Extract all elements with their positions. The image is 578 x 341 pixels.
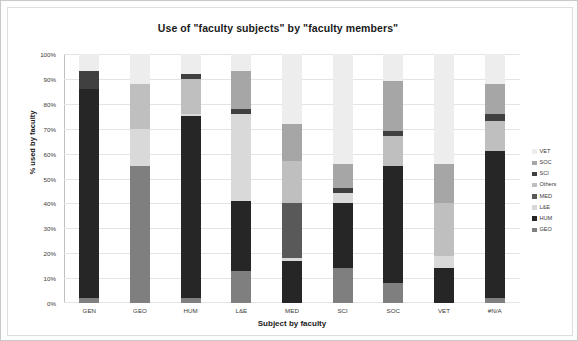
segment-LE[interactable] bbox=[130, 129, 150, 166]
x-axis-tick-GEO: GEO bbox=[115, 307, 166, 314]
segment-HUM[interactable] bbox=[231, 201, 251, 271]
x-axis-tick-LE: L&E bbox=[216, 307, 267, 314]
x-axis-tick-NA: #N/A bbox=[469, 307, 520, 314]
segment-Others[interactable] bbox=[434, 203, 454, 255]
segment-HUM[interactable] bbox=[434, 268, 454, 303]
segment-LE[interactable] bbox=[282, 258, 302, 260]
segment-VET[interactable] bbox=[79, 54, 99, 71]
segment-VET[interactable] bbox=[282, 54, 302, 124]
segment-GEO[interactable] bbox=[333, 268, 353, 303]
bar-LE[interactable] bbox=[231, 54, 251, 303]
x-axis-tick-GEN: GEN bbox=[64, 307, 115, 314]
legend-item-MED[interactable]: MED bbox=[532, 191, 578, 202]
segment-HUM[interactable] bbox=[485, 151, 505, 298]
x-axis-tick-MED: MED bbox=[267, 307, 318, 314]
bar-GEN[interactable] bbox=[79, 54, 99, 303]
segment-VET[interactable] bbox=[434, 54, 454, 164]
legend-label: MED bbox=[540, 194, 552, 200]
segment-HUM[interactable] bbox=[333, 203, 353, 268]
segment-VET[interactable] bbox=[231, 54, 251, 71]
segment-Others[interactable] bbox=[485, 121, 505, 151]
bar-NA[interactable] bbox=[485, 54, 505, 303]
legend-swatch-icon bbox=[532, 183, 537, 188]
segment-LE[interactable] bbox=[181, 114, 201, 116]
segment-GEO[interactable] bbox=[79, 298, 99, 303]
plot-area bbox=[64, 54, 520, 303]
bar-SCI[interactable] bbox=[333, 54, 353, 303]
bar-GEO[interactable] bbox=[130, 54, 150, 303]
segment-SCI[interactable] bbox=[79, 71, 99, 88]
segment-LE[interactable] bbox=[231, 114, 251, 201]
segment-SOC[interactable] bbox=[282, 124, 302, 161]
segment-VET[interactable] bbox=[333, 54, 353, 164]
legend-swatch-icon bbox=[532, 228, 537, 233]
legend-label: GEO bbox=[540, 227, 552, 233]
segment-VET[interactable] bbox=[383, 54, 403, 81]
x-axis-tick-HUM: HUM bbox=[165, 307, 216, 314]
legend-label: SOC bbox=[540, 160, 552, 166]
segment-SCI[interactable] bbox=[231, 109, 251, 114]
legend-item-LE[interactable]: L&E bbox=[532, 202, 578, 213]
legend-item-VET[interactable]: VET bbox=[532, 146, 578, 157]
segment-SCI[interactable] bbox=[485, 114, 505, 121]
legend-label: HUM bbox=[540, 216, 553, 222]
legend-swatch-icon bbox=[532, 161, 537, 166]
bar-SOC[interactable] bbox=[383, 54, 403, 303]
x-axis-title: Subject by faculty bbox=[64, 319, 520, 328]
segment-Others[interactable] bbox=[282, 161, 302, 203]
segment-LE[interactable] bbox=[434, 256, 454, 268]
legend-swatch-icon bbox=[532, 216, 537, 221]
segment-Others[interactable] bbox=[130, 84, 150, 129]
legend-label: VET bbox=[540, 149, 551, 155]
legend-item-Others[interactable]: Others bbox=[532, 180, 578, 191]
segment-GEO[interactable] bbox=[181, 298, 201, 303]
segment-VET[interactable] bbox=[485, 54, 505, 84]
segment-SCI[interactable] bbox=[383, 131, 403, 136]
x-axis-tick-SCI: SCI bbox=[317, 307, 368, 314]
legend-item-HUM[interactable]: HUM bbox=[532, 213, 578, 224]
y-axis-tick-0: 0% bbox=[10, 300, 56, 307]
segment-SCI[interactable] bbox=[181, 74, 201, 79]
segment-GEO[interactable] bbox=[231, 271, 251, 303]
segment-Others[interactable] bbox=[383, 136, 403, 166]
segment-VET[interactable] bbox=[130, 54, 150, 84]
segment-SOC[interactable] bbox=[434, 164, 454, 204]
segment-GEO[interactable] bbox=[485, 298, 505, 303]
legend-swatch-icon bbox=[532, 149, 537, 154]
legend-item-SCI[interactable]: SCI bbox=[532, 168, 578, 179]
y-axis-title: % used by faculty bbox=[28, 83, 37, 203]
segment-GEO[interactable] bbox=[130, 166, 150, 303]
segment-SCI[interactable] bbox=[333, 188, 353, 193]
segment-HUM[interactable] bbox=[383, 166, 403, 283]
segment-SOC[interactable] bbox=[333, 164, 353, 189]
chart-canvas: Use of "faculty subjects" by "faculty me… bbox=[7, 7, 573, 336]
segment-SOC[interactable] bbox=[231, 71, 251, 108]
legend-label: SCI bbox=[540, 171, 549, 177]
bar-MED[interactable] bbox=[282, 54, 302, 303]
segment-HUM[interactable] bbox=[282, 261, 302, 303]
legend-swatch-icon bbox=[532, 172, 537, 177]
y-axis-tick-90: 90% bbox=[10, 75, 56, 82]
chart-window: Use of "faculty subjects" by "faculty me… bbox=[0, 0, 578, 341]
segment-SOC[interactable] bbox=[485, 84, 505, 114]
chart-title: Use of "faculty subjects" by "faculty me… bbox=[68, 22, 488, 34]
x-axis-tick-VET: VET bbox=[419, 307, 470, 314]
y-axis-tick-30: 30% bbox=[10, 225, 56, 232]
segment-HUM[interactable] bbox=[79, 89, 99, 298]
segment-SOC[interactable] bbox=[383, 81, 403, 131]
legend-item-SOC[interactable]: SOC bbox=[532, 157, 578, 168]
y-axis-tick-20: 20% bbox=[10, 250, 56, 257]
segment-LE[interactable] bbox=[333, 193, 353, 203]
segment-HUM[interactable] bbox=[181, 116, 201, 298]
y-axis-tick-100: 100% bbox=[10, 51, 56, 58]
segment-Others[interactable] bbox=[181, 79, 201, 114]
segment-VET[interactable] bbox=[181, 54, 201, 74]
segment-GEO[interactable] bbox=[383, 283, 403, 303]
segment-MED[interactable] bbox=[282, 203, 302, 258]
y-axis-tick-10: 10% bbox=[10, 275, 56, 282]
bar-VET[interactable] bbox=[434, 54, 454, 303]
legend-swatch-icon bbox=[532, 205, 537, 210]
legend-item-GEO[interactable]: GEO bbox=[532, 224, 578, 235]
x-axis-tick-SOC: SOC bbox=[368, 307, 419, 314]
bar-HUM[interactable] bbox=[181, 54, 201, 303]
